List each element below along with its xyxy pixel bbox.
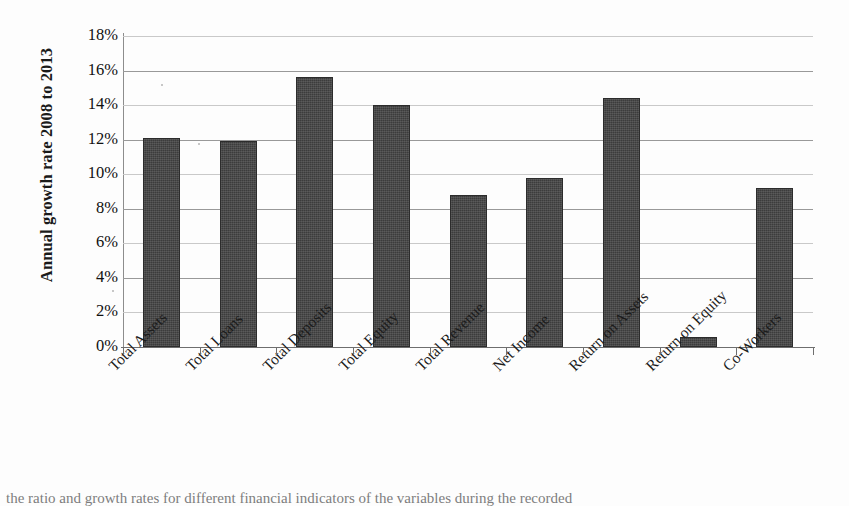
- x-tick-mark: [506, 347, 507, 355]
- chart-figure: Annual growth rate 2008 to 2013 0%2%4%6%…: [0, 0, 849, 506]
- page-caption: the ratio and growth rates for different…: [6, 492, 844, 506]
- x-tick-mark: [430, 347, 431, 355]
- scan-speck: [161, 84, 163, 86]
- y-tick-label: 8%: [58, 198, 118, 218]
- y-tick-label: 18%: [58, 25, 118, 45]
- x-tick-mark: [736, 347, 737, 355]
- y-tick-label: 6%: [58, 232, 118, 252]
- y-tick-label: 12%: [58, 129, 118, 149]
- scan-speck: [112, 290, 114, 292]
- page-caption-clip: the ratio and growth rates for different…: [0, 492, 849, 506]
- x-tick-mark: [353, 347, 354, 355]
- x-axis-line: [121, 347, 815, 348]
- y-tick-label: 14%: [58, 94, 118, 114]
- scan-speck: [198, 143, 200, 145]
- x-tick-mark: [813, 347, 814, 355]
- x-tick-mark: [276, 347, 277, 355]
- x-tick-mark: [583, 347, 584, 355]
- gridline-18: [123, 36, 813, 37]
- x-tick-mark: [200, 347, 201, 355]
- x-tick-mark: [660, 347, 661, 355]
- y-tick-label: 4%: [58, 267, 118, 287]
- y-tick-label: 0%: [58, 336, 118, 356]
- y-tick-label: 16%: [58, 60, 118, 80]
- y-axis-ticks: 0%2%4%6%8%10%12%14%16%18%: [52, 36, 118, 347]
- y-tick-label: 10%: [58, 163, 118, 183]
- gridline-14: [123, 105, 813, 106]
- gridline-16: [123, 71, 813, 72]
- x-tick-mark: [123, 347, 124, 355]
- y-tick-label: 2%: [58, 301, 118, 321]
